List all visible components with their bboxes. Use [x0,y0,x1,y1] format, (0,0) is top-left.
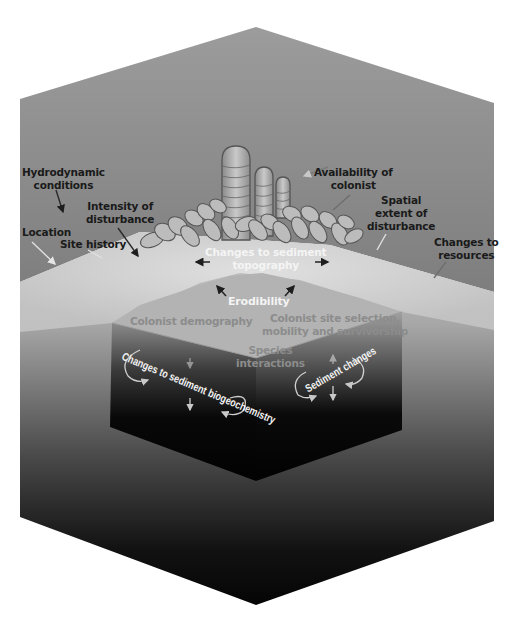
label-spatial-extent-of-disturbance: Spatial extent of disturbance [367,194,435,233]
label-line: Hydrodynamic [22,166,105,179]
label-line: mobility and survivorship [262,325,408,338]
label-line: disturbance [86,213,154,226]
label-changes-to-resources: Changes to resources [434,236,499,262]
label-line: Changes to [434,236,499,249]
label-intensity-of-disturbance: Intensity of disturbance [86,200,154,226]
label-line: Spatial [367,194,435,207]
label-line: disturbance [367,220,435,233]
label-line: conditions [22,179,105,192]
label-line: Colonist site selection, [262,312,408,325]
label-line: topography [205,259,326,272]
label-species-interactions: Species interactions [236,344,305,370]
label-hydrodynamic-conditions: Hydrodynamic conditions [22,166,105,192]
label-line: Availability of [314,166,393,179]
label-line: colonist [314,179,393,192]
label-line: extent of [367,207,435,220]
label-line: Changes to sediment [205,246,326,259]
label-site-history: Site history [60,238,126,251]
diagram-illustration [0,0,512,617]
diagram-canvas: Hydrodynamic conditions Intensity of dis… [0,0,512,617]
label-line: interactions [236,357,305,370]
label-erodibility: Erodibility [228,295,290,308]
label-line: resources [434,249,499,262]
label-line: Species [236,344,305,357]
label-line: Intensity of [86,200,154,213]
label-changes-to-sediment-topography: Changes to sediment topography [205,246,326,272]
label-colonist-demography: Colonist demography [130,315,252,328]
label-availability-of-colonist: Availability of colonist [314,166,393,192]
label-colonist-site-selection: Colonist site selection, mobility and su… [262,312,408,338]
